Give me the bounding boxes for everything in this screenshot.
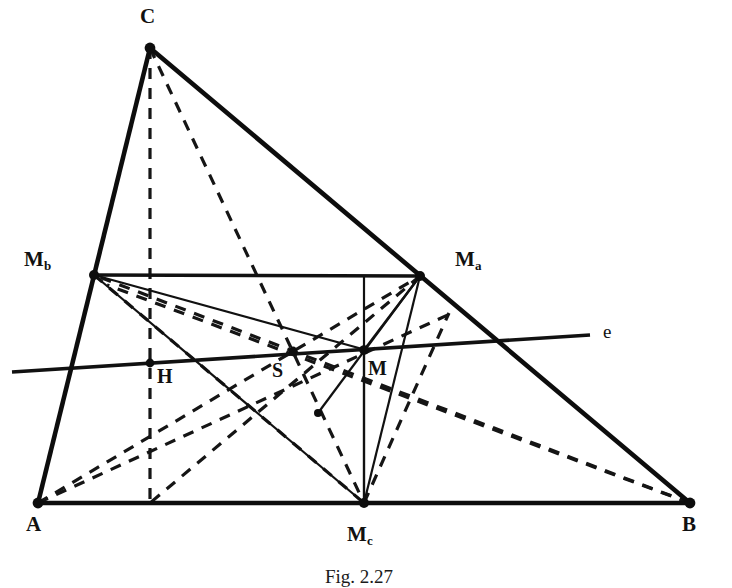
altitude-from-a-line [38,313,452,503]
point-dot-h [146,359,155,368]
point-dot-feuerbach [314,409,322,417]
midpoint-label-mc-sub: c [367,533,373,548]
midpoint-label-ma-base: M [455,247,475,271]
midpoint-label-mc-base: M [347,522,367,546]
midpoint-label-ma: Ma [455,249,481,270]
medial-side-mb-mc-line [94,275,364,503]
euler-line-group [12,335,590,372]
point-dot-mb [89,270,99,280]
medial-triangle-group [94,275,420,276]
vertex-label-c: C [140,6,155,27]
medial-side-mc-ma-line [364,276,420,503]
vertex-label-b: B [682,514,696,535]
midpoint-label-mb: Mb [24,249,51,270]
midpoint-label-ma-sub: a [475,258,482,273]
euler-line-figure: C A B Mb Ma Mc H S M e Fig. 2.27 [0,0,732,588]
euler-line-label-e: e [603,322,611,341]
solid-thin-group [94,275,420,503]
perp-bisector-ca-line [94,275,366,350]
euler-line [12,335,590,372]
point-dot-b [685,498,696,509]
medial-cevian-ma-mc-line [150,276,420,503]
figure-caption: Fig. 2.27 [325,566,393,588]
center-label-h: H [157,366,173,386]
point-dot-mc [359,498,369,508]
medial-side-mb-ma-line [94,275,420,276]
point-dot-ma [415,271,425,281]
geometry-canvas [0,0,732,588]
center-label-m: M [368,358,387,378]
point-dot-s [289,347,298,356]
point-dot-m [359,345,369,355]
midpoint-label-mb-sub: b [44,258,51,273]
center-label-s: S [272,360,283,380]
midpoint-label-mb-base: M [24,247,44,271]
altitude-from-b-line [107,285,690,503]
vertex-label-a: A [26,514,41,535]
point-dot-c [145,43,156,54]
midpoint-label-mc: Mc [347,524,373,545]
point-dot-a [33,498,44,509]
